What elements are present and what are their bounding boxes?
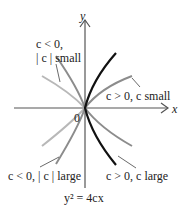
leader-c-pos-small [132,78,140,87]
parabola-family-diagram: y x 0 c < 0, | c | small c > 0, c small … [0,0,188,214]
y-axis-label: y [80,10,85,23]
x-axis-label: x [172,103,177,116]
label-c-neg-small-line1: c < 0, [36,38,63,51]
label-c-neg-large: c < 0, | c | large [8,170,81,183]
label-c-pos-large: c > 0, c large [106,170,168,183]
curve-c-pos-large [85,53,116,165]
label-c-neg-small-line2: | c | small [36,52,81,65]
origin-label: 0 [74,112,80,125]
leader-c-neg-small [56,64,60,82]
curve-c-neg-large [56,56,85,164]
leader-c-pos-large [118,156,136,168]
equation-label: y² = 4cx [64,192,104,205]
label-c-pos-small: c > 0, c small [106,90,170,103]
